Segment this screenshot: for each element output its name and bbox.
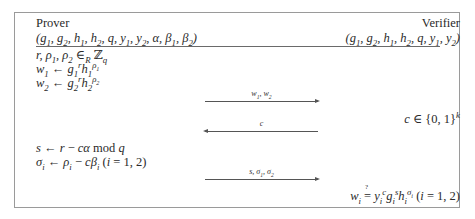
prover-response-sigma: σi ← ρi − cβi (i = 1, 2) — [36, 155, 146, 169]
verifier-challenge: c ∈ {0, 1}k — [404, 112, 460, 126]
verifier-title: Verifier — [422, 16, 460, 30]
prover-title: Prover — [36, 16, 69, 30]
arrow-right-icon — [205, 179, 318, 180]
header-divider — [36, 46, 440, 47]
verifier-params: (g1, g2, h1, h2, q, y1, y2) — [346, 31, 460, 45]
prover-params: (g1, g2, h1, h2, q, y1, y2, α, β1, β2) — [36, 31, 197, 45]
arrow-left-icon — [205, 131, 318, 132]
arrow-right-icon — [205, 101, 318, 102]
message-label-response: s, σ1, σ2 — [205, 167, 318, 176]
message-label-challenge: c — [205, 119, 318, 128]
verifier-check: wi =? yicgishiσi (i = 1, 2) — [350, 189, 460, 203]
message-label-commitment: w1, w2 — [205, 89, 318, 98]
prover-response-s: s ← r − cα mod q — [36, 141, 125, 155]
prover-step-w2: w2 ← g2rh2ρ2 — [36, 76, 99, 90]
prover-step-w1: w1 ← g1rh1ρ1 — [36, 62, 99, 76]
